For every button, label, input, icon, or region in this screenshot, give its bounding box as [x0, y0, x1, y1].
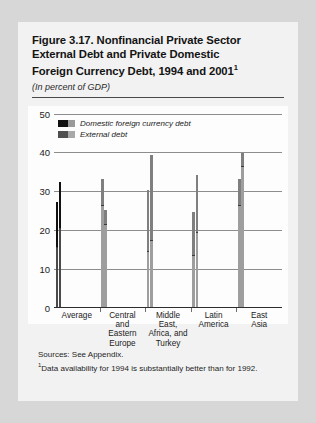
figure-title-line-3: Foreign Currency Debt, 1994 and 2001: [32, 65, 234, 77]
bar-central-and-eastern-europe-1994: [101, 179, 104, 307]
title-divider: [32, 97, 284, 98]
segment-divider: [56, 247, 59, 248]
segment-domestic-foreign-currency-debt: [104, 210, 107, 226]
x-axis-label-east-asia: EastAsia: [236, 311, 282, 330]
segment-divider: [238, 205, 241, 206]
segment-divider: [150, 240, 153, 241]
bar-group: [236, 113, 282, 307]
sources-line: Sources: See Appendix.: [38, 350, 284, 361]
legend-swatch-external-icon: [58, 131, 75, 138]
bar-latin-america-2001: [196, 175, 199, 307]
segment-domestic-foreign-currency-debt: [147, 190, 150, 252]
plot-area: 01020304050 AverageCentralandEasternEuro…: [54, 114, 282, 308]
figure-footer: Sources: See Appendix. 1Data availabilit…: [38, 350, 284, 375]
segment-external-debt: [56, 248, 59, 306]
y-tick-label-40: 40: [39, 147, 50, 158]
bar-central-and-eastern-europe-2001: [104, 210, 107, 307]
figure-title-line-2: External Debt and Private Domestic: [32, 48, 219, 60]
segment-external-debt: [238, 206, 241, 307]
segment-domestic-foreign-currency-debt: [56, 202, 59, 249]
segment-external-debt: [59, 229, 62, 307]
segment-domestic-foreign-currency-debt: [101, 179, 104, 206]
title-footnote-marker: 1: [234, 63, 238, 72]
segment-domestic-foreign-currency-debt: [238, 179, 241, 206]
segment-domestic-foreign-currency-debt: [192, 212, 195, 257]
segment-external-debt: [147, 252, 150, 306]
bar-group: [145, 113, 191, 307]
segment-external-debt: [104, 225, 107, 306]
x-axis-label-average: Average: [54, 311, 100, 320]
segment-domestic-foreign-currency-debt: [196, 175, 199, 233]
chart-legend: Domestic foreign currency debt External …: [58, 119, 191, 141]
segment-divider: [104, 224, 107, 225]
segment-domestic-foreign-currency-debt: [59, 182, 62, 229]
footnote-text: Data availability for 1994 is substantia…: [41, 364, 257, 373]
segment-external-debt: [192, 256, 195, 306]
segment-external-debt: [241, 167, 244, 307]
bar-latin-america-1994: [192, 212, 195, 307]
segment-divider: [241, 166, 244, 167]
x-axis-label-middle-east-africa-and-turkey: MiddleEast,Africa, andTurkey: [145, 311, 191, 349]
segment-divider: [192, 255, 195, 256]
bar-average-1994: [56, 202, 59, 307]
x-axis-line: [54, 307, 282, 308]
figure-card: Figure 3.17. Nonfinancial Private Sector…: [18, 22, 298, 401]
segment-divider: [101, 205, 104, 206]
segment-divider: [147, 251, 150, 252]
legend-swatch-domestic-icon: [58, 120, 75, 127]
y-tick-label-0: 0: [45, 302, 50, 313]
legend-item-domestic: Domestic foreign currency debt: [58, 119, 191, 128]
bar-group: [191, 113, 237, 307]
segment-external-debt: [150, 241, 153, 307]
y-tick-label-30: 30: [39, 186, 50, 197]
legend-label-domestic: Domestic foreign currency debt: [80, 119, 191, 128]
segment-external-debt: [101, 206, 104, 307]
legend-item-external: External debt: [58, 130, 191, 139]
figure-title-line-1: Figure 3.17. Nonfinancial Private Sector: [32, 34, 241, 46]
footnote-line: 1Data availability for 1994 is substanti…: [38, 360, 284, 374]
y-tick-label-10: 10: [39, 263, 50, 274]
x-axis-label-central-and-eastern-europe: CentralandEasternEurope: [100, 311, 146, 349]
y-tick-label-50: 50: [39, 108, 50, 119]
page-title: Figure 3.17. Nonfinancial Private Sector…: [32, 34, 284, 79]
x-axis-label-latin-america: LatinAmerica: [191, 311, 237, 330]
legend-label-external: External debt: [80, 130, 127, 139]
bar-east-asia-1994: [238, 179, 241, 307]
bar-middle-east-africa-and-turkey-2001: [150, 155, 153, 306]
bar-average-2001: [59, 182, 62, 306]
bar-group: [54, 113, 100, 307]
segment-domestic-foreign-currency-debt: [241, 153, 244, 167]
title-block: Figure 3.17. Nonfinancial Private Sector…: [18, 22, 298, 92]
segment-domestic-foreign-currency-debt: [150, 155, 153, 240]
segment-external-debt: [196, 233, 199, 307]
chart-panel: 01020304050 AverageCentralandEasternEuro…: [28, 106, 288, 324]
segment-divider: [59, 228, 62, 229]
bar-group: [100, 113, 146, 307]
bar-east-asia-2001: [241, 153, 244, 306]
bar-middle-east-africa-and-turkey-1994: [147, 190, 150, 306]
figure-subtitle: (In percent of GDP): [32, 82, 284, 92]
y-tick-label-20: 20: [39, 224, 50, 235]
segment-divider: [196, 232, 199, 233]
